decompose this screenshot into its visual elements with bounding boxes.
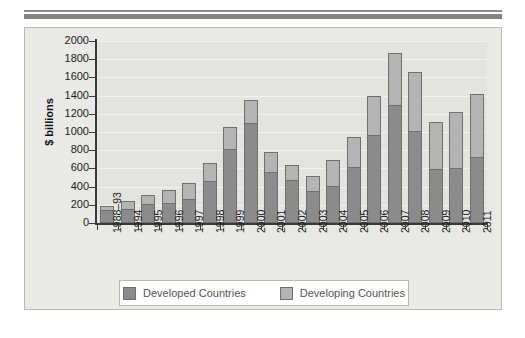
- y-tick-mark: [89, 205, 95, 206]
- chart-legend: Developed CountriesDeveloping Countries: [119, 280, 409, 306]
- x-tick-mark: [343, 225, 344, 230]
- color-swatch-icon: [123, 287, 136, 300]
- x-tick-mark: [323, 225, 324, 230]
- x-tick-mark: [364, 225, 365, 230]
- legend-label: Developed Countries: [143, 287, 246, 299]
- x-tick-mark: [261, 225, 262, 230]
- legend-label: Developing Countries: [300, 287, 405, 299]
- y-tick-mark: [89, 132, 95, 133]
- x-tick-mark: [241, 225, 242, 230]
- y-tick-mark: [89, 96, 95, 97]
- y-tick-mark: [89, 77, 95, 78]
- x-tick-mark: [200, 225, 201, 230]
- legend-entry[interactable]: Developing Countries: [280, 287, 405, 300]
- color-swatch-icon: [280, 287, 293, 300]
- x-tick-mark: [220, 225, 221, 230]
- legend-entry[interactable]: Developed Countries: [123, 287, 246, 300]
- y-tick-mark: [89, 41, 95, 42]
- x-tick-mark: [405, 225, 406, 230]
- x-tick-mark: [159, 225, 160, 230]
- y-tick-mark: [89, 168, 95, 169]
- x-tick-mark: [97, 225, 98, 230]
- rule-thick: [24, 14, 502, 19]
- x-tick-mark: [466, 225, 467, 230]
- x-tick-mark: [179, 225, 180, 230]
- y-tick-mark: [89, 150, 95, 151]
- x-tick-mark: [384, 225, 385, 230]
- x-tick-mark: [118, 225, 119, 230]
- y-tick-mark: [89, 187, 95, 188]
- chart-figure: 0200400600800100012001400160018002000 $ …: [24, 27, 502, 310]
- x-tick-mark: [282, 225, 283, 230]
- x-tick-mark: [425, 225, 426, 230]
- y-tick-mark: [89, 223, 95, 224]
- x-tick-mark: [138, 225, 139, 230]
- x-axis-ticks: 1988–93199419951996199719981999200020012…: [25, 28, 503, 311]
- rule-thin: [24, 10, 502, 12]
- y-tick-mark: [89, 114, 95, 115]
- x-tick-mark: [487, 225, 488, 230]
- x-tick-mark: [302, 225, 303, 230]
- y-tick-mark: [89, 59, 95, 60]
- x-tick-mark: [446, 225, 447, 230]
- decorative-top-rules: [24, 10, 502, 22]
